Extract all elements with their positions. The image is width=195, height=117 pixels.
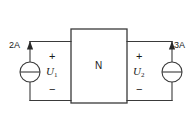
left-source-current-label: 2A: [9, 41, 20, 50]
left-port-minus-sign: −: [49, 84, 55, 95]
right-port-minus-sign: −: [136, 84, 142, 95]
left-current-arrow-icon: [27, 41, 33, 50]
circuit-diagram: 2A 3A + U1 − + U2 − N: [0, 0, 195, 117]
right-port-voltage-symbol: U: [133, 65, 141, 77]
network-box-label: N: [95, 61, 102, 71]
left-port-plus-sign: +: [49, 51, 55, 62]
right-port-voltage-label: U2: [133, 66, 144, 79]
right-source-current-label: 3A: [174, 41, 185, 50]
left-port-voltage-symbol: U: [46, 65, 54, 77]
left-port-voltage-label: U1: [46, 66, 57, 79]
circuit-schematic-svg: [0, 0, 195, 117]
right-port-voltage-subscript: 2: [141, 71, 145, 79]
right-port-plus-sign: +: [136, 51, 142, 62]
left-port-voltage-subscript: 1: [54, 71, 58, 79]
